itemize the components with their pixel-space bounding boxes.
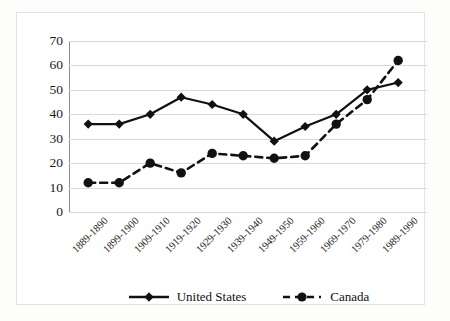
y-axis-tick-label: 0	[56, 205, 63, 219]
data-point-marker	[394, 78, 403, 87]
data-point-marker	[208, 149, 217, 158]
data-point-marker	[84, 178, 93, 187]
plot-area	[69, 41, 427, 212]
gridline	[69, 212, 427, 213]
data-point-marker	[332, 119, 341, 128]
page-background: 706050403020100 1889-18901899-19001909-1…	[0, 0, 450, 321]
series-line-canada	[88, 61, 398, 183]
data-point-marker	[363, 95, 372, 104]
y-axis-tick-label: 40	[50, 107, 64, 121]
y-axis-tick-label: 10	[50, 181, 64, 195]
data-point-marker	[394, 56, 403, 65]
y-axis-tick-label: 60	[50, 58, 64, 72]
series-lines	[69, 41, 427, 212]
chart-legend: United States Canada	[69, 285, 427, 309]
y-axis-tick-label: 50	[50, 83, 64, 97]
legend-label-canada: Canada	[330, 289, 369, 305]
chart-frame: 706050403020100 1889-18901899-19001909-1…	[16, 12, 425, 305]
data-point-marker	[270, 154, 279, 163]
y-axis-tick-label: 30	[50, 132, 64, 146]
data-point-marker	[115, 178, 124, 187]
legend-item-united-states: United States	[127, 289, 247, 305]
data-point-marker	[239, 151, 248, 160]
y-axis-tick-labels: 706050403020100	[17, 13, 63, 213]
data-point-marker	[146, 110, 155, 119]
y-axis-tick-label: 70	[50, 34, 64, 48]
data-point-marker	[115, 119, 124, 128]
legend-label-united-states: United States	[177, 289, 247, 305]
data-point-marker	[301, 122, 310, 131]
data-point-marker	[208, 100, 217, 109]
data-point-marker	[177, 93, 186, 102]
diamond-marker-icon	[127, 290, 171, 304]
y-axis-tick-label: 20	[50, 156, 64, 170]
data-point-marker	[146, 158, 155, 167]
x-axis-tick-labels: 1889-18901899-19001909-19101919-19201929…	[69, 215, 427, 285]
data-point-marker	[84, 119, 93, 128]
data-point-marker	[177, 168, 186, 177]
circle-marker-icon	[280, 290, 324, 304]
legend-item-canada: Canada	[280, 289, 369, 305]
data-point-marker	[301, 151, 310, 160]
